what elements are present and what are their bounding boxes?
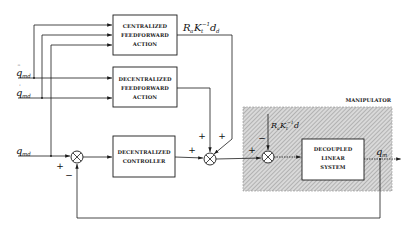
svg-text:DECOUPLED: DECOUPLED [314,146,353,152]
sign-control-ff2: + [218,131,226,141]
input-acc-label: q ¨ md [16,64,31,79]
svg-text:SYSTEM: SYSTEM [320,164,346,170]
svg-text:a: a [190,28,193,34]
manipulator-label: MANIPULATOR [346,97,392,103]
controller-out-line [175,157,203,158]
block-diagram: MANIPULATOR CENTRALIZED FEEDFORWARD ACTI… [0,0,417,232]
summing-junction-error [71,151,83,163]
svg-text:t: t [286,126,288,131]
centralized-feedforward-block: CENTRALIZED FEEDFORWARD ACTION [113,15,177,55]
input-pos-label: q md [16,145,31,157]
svg-text:md: md [22,93,31,99]
svg-text:−1: −1 [287,120,294,125]
decentralized-ff-out-line [177,88,210,152]
svg-text:˙: ˙ [18,84,22,92]
summing-junction-disturbance [262,151,274,163]
svg-text:d: d [294,121,299,130]
svg-text:ACTION: ACTION [132,94,157,100]
svg-text:md: md [22,73,31,79]
sign-error-ref: + [56,161,64,171]
acc-branch-dot [33,77,35,79]
svg-text:R: R [270,121,277,130]
disturbance-signal-label: R a K t −1 d [270,120,299,131]
summing-junction-control [204,153,216,165]
svg-text:¨: ¨ [17,64,21,72]
svg-text:d: d [216,28,220,34]
input-vel-label: q ˙ md [16,84,31,99]
svg-text:DECENTRALIZED: DECENTRALIZED [118,76,171,82]
centralized-signal-label: R a K t −1 d d [182,21,220,34]
svg-text:FEEDFORWARD: FEEDFORWARD [121,85,169,91]
pos-branch-dot [50,155,52,157]
vel-branch-line [42,35,112,98]
pos-branch-line [51,45,112,156]
output-branch-dot [379,158,381,160]
vel-branch-dot [41,97,43,99]
acc-branch-line [34,25,112,78]
sign-control-ff1: + [198,131,206,141]
svg-text:CENTRALIZED: CENTRALIZED [123,23,168,29]
svg-text:m: m [382,152,387,158]
sign-disturbance-minus: − [258,133,266,143]
svg-text:CONTROLLER: CONTROLLER [123,158,166,164]
sign-control-ctrl: + [188,145,196,155]
svg-text:DECENTRALIZED: DECENTRALIZED [117,149,170,155]
sign-disturbance-in: + [248,145,256,155]
sign-error-feedback: − [65,170,73,180]
svg-text:−1: −1 [202,21,210,27]
svg-text:md: md [22,151,31,157]
svg-text:FEEDFORWARD: FEEDFORWARD [121,32,169,38]
decentralized-feedforward-block: DECENTRALIZED FEEDFORWARD ACTION [113,67,177,107]
svg-text:LINEAR: LINEAR [321,155,345,161]
decoupled-linear-system-block: DECOUPLED LINEAR SYSTEM [302,139,364,180]
decentralized-controller-block: DECENTRALIZED CONTROLLER [113,136,175,177]
svg-text:ACTION: ACTION [132,41,157,47]
svg-text:t: t [201,28,204,34]
